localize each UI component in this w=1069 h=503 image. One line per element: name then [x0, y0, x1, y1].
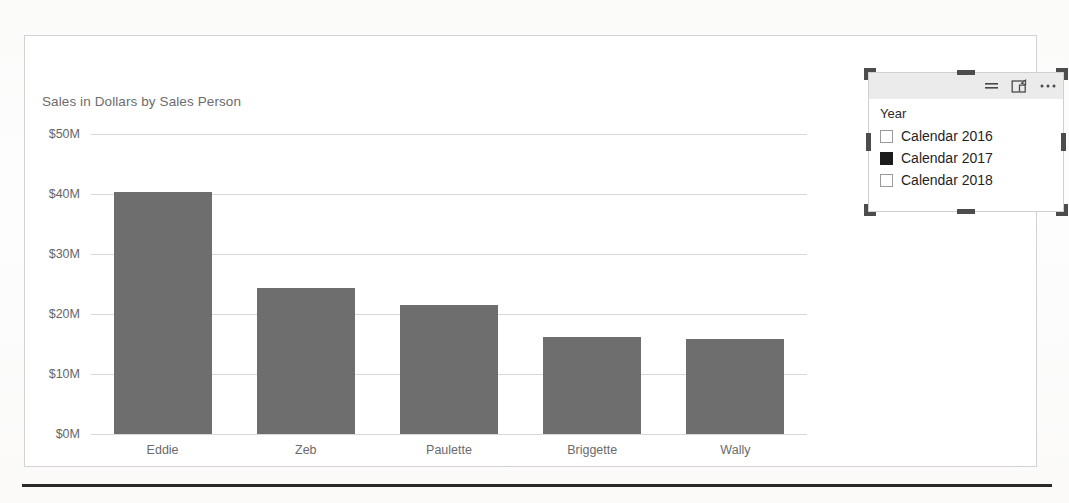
checkbox-icon[interactable] — [880, 130, 893, 143]
more-options-icon[interactable] — [1039, 83, 1057, 89]
y-axis-tick-label: $30M — [49, 247, 80, 261]
x-axis-label-briggette: Briggette — [567, 443, 617, 457]
resize-handle-bottom[interactable] — [957, 209, 975, 214]
chart-title: Sales in Dollars by Sales Person — [42, 94, 241, 109]
checkbox-icon[interactable] — [880, 152, 893, 165]
bar-eddie[interactable] — [114, 192, 212, 434]
x-axis-label-eddie: Eddie — [147, 443, 179, 457]
resize-handle-top-left[interactable] — [864, 68, 876, 80]
slicer-item-label: Calendar 2017 — [901, 150, 993, 166]
slicer-item-list: Calendar 2016Calendar 2017Calendar 2018 — [880, 125, 1063, 191]
resize-handle-bottom-right[interactable] — [1056, 204, 1068, 216]
slicer-item[interactable]: Calendar 2016 — [880, 125, 1063, 147]
y-axis-tick-label: $0M — [56, 427, 80, 441]
bar-wally[interactable] — [686, 339, 784, 434]
bar-paulette[interactable] — [400, 305, 498, 434]
chart-plot-area: $0M$10M$20M$30M$40M$50M EddieZebPaulette… — [91, 134, 807, 434]
gridline: $0M — [91, 434, 807, 435]
slicer-body: Year Calendar 2016Calendar 2017Calendar … — [869, 99, 1063, 191]
year-slicer-visual[interactable]: Year Calendar 2016Calendar 2017Calendar … — [868, 72, 1064, 212]
filter-icon[interactable] — [983, 80, 1000, 93]
resize-handle-right[interactable] — [1061, 133, 1066, 151]
bottom-divider-rule — [22, 484, 1052, 487]
checkbox-icon[interactable] — [880, 174, 893, 187]
report-canvas: Sales in Dollars by Sales Person $0M$10M… — [24, 35, 1037, 467]
resize-handle-left[interactable] — [866, 133, 871, 151]
x-axis-label-wally: Wally — [720, 443, 750, 457]
bar-briggette[interactable] — [543, 337, 641, 434]
y-axis-tick-label: $10M — [49, 367, 80, 381]
bar-zeb[interactable] — [257, 288, 355, 434]
y-axis-tick-label: $50M — [49, 127, 80, 141]
slicer-title: Year — [880, 106, 1063, 121]
resize-handle-top-right[interactable] — [1056, 68, 1068, 80]
slicer-header — [869, 73, 1063, 99]
chart-bars — [91, 134, 807, 434]
focus-mode-icon[interactable] — [1011, 79, 1028, 94]
slicer-item-label: Calendar 2016 — [901, 128, 993, 144]
y-axis-tick-label: $20M — [49, 307, 80, 321]
x-axis-label-paulette: Paulette — [426, 443, 472, 457]
resize-handle-top[interactable] — [957, 70, 975, 75]
column-chart-visual[interactable]: Sales in Dollars by Sales Person $0M$10M… — [25, 36, 825, 468]
y-axis-tick-label: $40M — [49, 187, 80, 201]
slicer-item[interactable]: Calendar 2017 — [880, 147, 1063, 169]
x-axis-label-zeb: Zeb — [295, 443, 317, 457]
resize-handle-bottom-left[interactable] — [864, 204, 876, 216]
slicer-item[interactable]: Calendar 2018 — [880, 169, 1063, 191]
slicer-item-label: Calendar 2018 — [901, 172, 993, 188]
